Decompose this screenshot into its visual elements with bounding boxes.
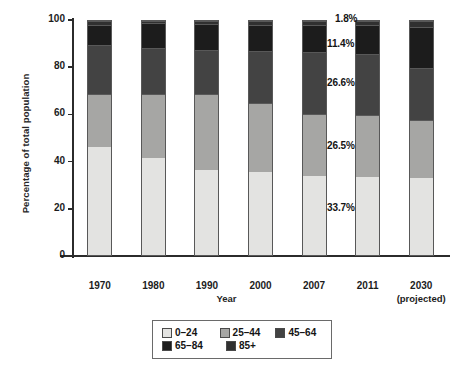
bar-segment-1980-65-84[interactable]	[142, 23, 165, 47]
y-tick-label: 60	[54, 107, 65, 118]
bar-segment-2007-25-44[interactable]	[303, 114, 326, 176]
bar-segment-1990-0-24[interactable]	[195, 170, 218, 255]
bar-segment-2011-25-44[interactable]	[356, 115, 379, 177]
y-tick-mark	[68, 19, 73, 21]
bar-1990[interactable]	[194, 20, 219, 256]
bar-segment-2011-65-84[interactable]	[356, 25, 379, 53]
legend-swatch-0-24	[162, 328, 172, 338]
x-axis-title: Year	[0, 293, 453, 304]
bar-segment-2030-0-24[interactable]	[410, 178, 433, 255]
data-label-2007-0: 1.8%	[335, 13, 357, 24]
bar-segment-2007-45-64[interactable]	[303, 52, 326, 114]
y-tick-mark	[68, 114, 73, 116]
data-label-2007-3: 26.5%	[327, 140, 355, 151]
x-axis-label-text: 1980	[142, 280, 164, 291]
legend-item-0-24[interactable]: 0–24	[162, 326, 220, 339]
bar-1980[interactable]	[141, 20, 166, 256]
y-tick-label: 20	[54, 202, 65, 213]
legend-row-1: 0–24 25–44 45–64	[162, 326, 324, 339]
legend-row-2: 65–84 85+	[162, 339, 324, 352]
bar-segment-1980-25-44[interactable]	[142, 94, 165, 158]
bar-segment-1970-65-84[interactable]	[88, 25, 111, 45]
y-tick-label: 0	[59, 249, 65, 260]
legend-label-65-84: 65–84	[175, 339, 203, 352]
x-axis-label-text: 2030	[410, 280, 432, 291]
legend-swatch-45-64	[275, 328, 285, 338]
plot-area: 0204060801001970198019902000200720112030…	[73, 20, 448, 256]
bar-segment-1980-0-24[interactable]	[142, 158, 165, 255]
bar-segment-2030-25-44[interactable]	[410, 120, 433, 179]
y-tick-mark	[68, 255, 73, 257]
bar-2000[interactable]	[248, 20, 273, 256]
legend-item-85-plus[interactable]: 85+	[226, 339, 288, 352]
legend-swatch-85-plus	[226, 341, 236, 351]
bar-segment-2007-0-24[interactable]	[303, 176, 326, 255]
chart-legend: 0–24 25–44 45–64 65–84 85+	[152, 320, 332, 359]
bar-segment-2000-25-44[interactable]	[249, 103, 272, 173]
bar-2011[interactable]	[355, 20, 380, 256]
y-tick-label: 80	[54, 60, 65, 71]
bar-segment-2007-65-84[interactable]	[303, 25, 326, 52]
data-label-2007-4: 33.7%	[327, 202, 355, 213]
bar-segment-2011-0-24[interactable]	[356, 177, 379, 255]
y-tick-label: 40	[54, 155, 65, 166]
bar-segment-2000-45-64[interactable]	[249, 51, 272, 103]
legend-label-25-44: 25–44	[233, 326, 261, 339]
x-axis-label-text: 2011	[357, 280, 379, 291]
bar-1970[interactable]	[87, 20, 112, 256]
x-axis-label-text: 2000	[249, 280, 271, 291]
legend-item-25-44[interactable]: 25–44	[220, 326, 276, 339]
legend-label-45-64: 45–64	[288, 326, 316, 339]
legend-item-45-64[interactable]: 45–64	[275, 326, 324, 339]
legend-swatch-65-84	[162, 341, 172, 351]
y-tick-mark	[68, 208, 73, 210]
y-tick-mark	[68, 66, 73, 68]
y-axis-title: Percentage of total population	[20, 44, 31, 244]
legend-label-85-plus: 85+	[239, 339, 256, 352]
bar-segment-1990-25-44[interactable]	[195, 94, 218, 170]
bar-segment-2030-65-84[interactable]	[410, 27, 433, 68]
bar-2030[interactable]	[409, 20, 434, 256]
stacked-bar-chart: Percentage of total population 020406080…	[0, 0, 453, 376]
legend-label-0-24: 0–24	[175, 326, 197, 339]
bar-segment-2011-45-64[interactable]	[356, 54, 379, 116]
data-label-2007-2: 26.6%	[327, 77, 355, 88]
x-axis-label-text: 1970	[89, 280, 111, 291]
legend-item-65-84[interactable]: 65–84	[162, 339, 226, 352]
bar-2007[interactable]	[302, 20, 327, 256]
bar-segment-1980-45-64[interactable]	[142, 48, 165, 94]
bar-segment-2000-65-84[interactable]	[249, 25, 272, 51]
data-label-2007-1: 11.4%	[327, 38, 354, 49]
bar-segment-1970-45-64[interactable]	[88, 45, 111, 93]
bar-segment-1970-25-44[interactable]	[88, 94, 111, 148]
y-tick-mark	[68, 161, 73, 163]
x-axis-label-text: 1990	[196, 280, 218, 291]
bar-segment-1970-0-24[interactable]	[88, 147, 111, 255]
bar-segment-2030-45-64[interactable]	[410, 68, 433, 120]
legend-swatch-25-44	[220, 328, 230, 338]
bar-segment-1990-45-64[interactable]	[195, 50, 218, 94]
bar-segment-1990-65-84[interactable]	[195, 24, 218, 50]
bar-segment-2000-0-24[interactable]	[249, 172, 272, 255]
y-tick-label: 100	[48, 13, 65, 24]
x-axis-label-text: 2007	[303, 280, 325, 291]
